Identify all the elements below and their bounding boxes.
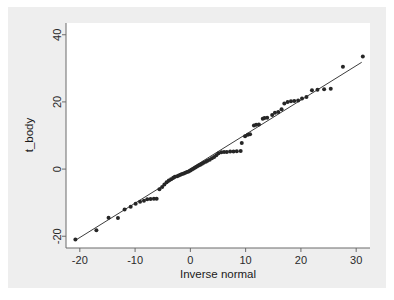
- data-point: [286, 100, 290, 104]
- y-tick-label: 0: [51, 166, 63, 172]
- data-point: [248, 132, 252, 136]
- data-point: [296, 99, 300, 103]
- plot-area-background: [66, 23, 370, 248]
- data-point: [304, 95, 308, 99]
- data-point: [116, 216, 120, 220]
- x-tick-label: -20: [72, 254, 88, 266]
- x-tick-label: 10: [240, 254, 252, 266]
- x-axis-ticks: -20-100102030: [72, 248, 362, 266]
- y-tick-label: -20: [51, 228, 63, 244]
- data-point: [361, 55, 365, 59]
- y-tick-label: 40: [51, 29, 63, 41]
- data-point: [239, 149, 243, 153]
- data-point: [123, 207, 127, 211]
- data-point: [315, 88, 319, 92]
- x-tick-label: 0: [187, 254, 193, 266]
- data-point: [155, 197, 159, 201]
- data-point: [240, 141, 244, 145]
- qq-plot-figure: -20-100102030 -2002040 Inverse normal t_…: [0, 0, 394, 300]
- data-point: [300, 97, 304, 101]
- y-axis-title: t_body: [23, 117, 35, 152]
- data-point: [292, 99, 296, 103]
- data-point: [341, 65, 345, 69]
- x-axis-title: Inverse normal: [180, 268, 256, 280]
- data-point: [265, 116, 269, 120]
- data-point: [280, 107, 284, 111]
- data-point: [257, 122, 261, 126]
- x-tick-label: -10: [127, 254, 143, 266]
- data-point: [276, 110, 280, 114]
- data-point: [329, 87, 333, 91]
- data-point: [129, 205, 133, 209]
- data-point: [310, 88, 314, 92]
- data-point: [94, 228, 98, 232]
- y-axis-ticks: -2002040: [51, 29, 66, 245]
- data-point: [322, 87, 326, 91]
- y-tick-label: 20: [51, 96, 63, 108]
- data-point: [273, 111, 277, 115]
- x-tick-label: 30: [350, 254, 362, 266]
- data-point: [134, 202, 138, 206]
- data-point: [138, 200, 142, 204]
- data-point: [107, 216, 111, 220]
- data-point: [235, 149, 239, 153]
- qq-plot-canvas: -20-100102030 -2002040 Inverse normal t_…: [0, 0, 394, 300]
- x-tick-label: 20: [295, 254, 307, 266]
- data-point: [73, 238, 77, 242]
